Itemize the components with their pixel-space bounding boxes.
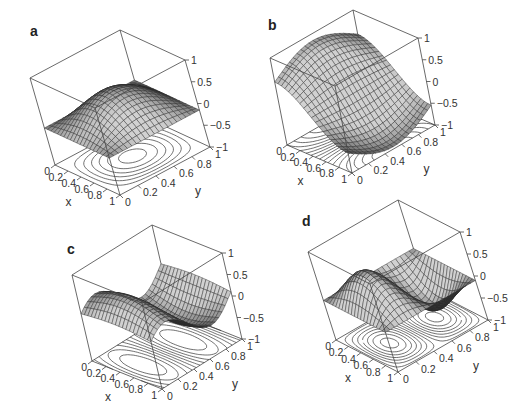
z-tick-label: 0.5 <box>197 76 212 88</box>
panel-d-surface-plot: 00.20.40.60.8100.20.40.60.81−1−0.500.51x… <box>302 200 508 385</box>
z-tick-label: −1 <box>494 314 506 326</box>
y-tick-label: 0.2 <box>143 186 158 198</box>
y-tick-label: 0.8 <box>475 331 490 343</box>
x-tick-label: 0.2 <box>86 367 101 379</box>
z-tick-label: 0.5 <box>428 54 443 66</box>
y-tick-label: 0.4 <box>199 370 214 382</box>
z-tick-label: 0 <box>204 98 210 110</box>
y-tick-label: 0.4 <box>161 177 176 189</box>
y-tick-label: 0.6 <box>407 145 422 157</box>
y-tick-label: 0.2 <box>421 363 436 375</box>
y-tick-label: 0.2 <box>374 164 389 176</box>
surface-mesh <box>275 33 431 154</box>
x-tick-label: 1 <box>341 173 347 185</box>
y-tick-label: 0.6 <box>215 360 230 372</box>
y-tick-label: 0.8 <box>197 158 212 170</box>
x-tick-label: 0.8 <box>366 366 381 378</box>
y-tick-label: 0.8 <box>231 350 246 362</box>
x-axis-label: x <box>105 390 111 404</box>
x-axis-label: x <box>66 195 72 209</box>
y-tick-label: 0.6 <box>179 167 194 179</box>
x-axis-label: x <box>298 174 304 188</box>
y-axis-label: y <box>473 359 479 373</box>
z-tick-label: 1 <box>228 247 234 259</box>
panel-c-surface-plot: 00.20.40.60.8100.20.40.60.81−1−0.500.51x… <box>67 225 264 404</box>
z-tick-label: 0 <box>238 290 244 302</box>
z-tick-label: 1 <box>424 32 430 44</box>
x-tick-label: 1 <box>151 389 157 401</box>
panel-label: d <box>302 213 311 229</box>
x-tick-label: 0.6 <box>114 378 129 390</box>
surface-mesh <box>323 248 475 332</box>
panel-label: b <box>268 17 277 33</box>
x-tick-label: 0.8 <box>128 383 143 395</box>
y-axis-label: y <box>424 162 430 176</box>
surface-mesh <box>44 80 199 158</box>
x-tick-label: 0.8 <box>319 167 334 179</box>
figure-canvas: 00.20.40.60.8100.20.40.60.81−1−0.500.51x… <box>0 0 532 415</box>
y-tick-label: 0 <box>125 196 131 208</box>
x-tick-label: 0.8 <box>87 189 102 201</box>
y-axis-label: y <box>232 377 238 391</box>
y-tick-label: 0.8 <box>423 136 438 148</box>
panel-a-surface-plot: 00.20.40.60.8100.20.40.60.81−1−0.500.51x… <box>30 23 231 209</box>
y-axis-label: y <box>195 184 201 198</box>
y-tick-label: 0 <box>357 174 363 186</box>
panel-b-surface-plot: 00.20.40.60.8100.20.40.60.81−1−0.500.51x… <box>268 10 458 188</box>
z-tick-label: 1 <box>466 226 472 238</box>
x-axis-label: x <box>345 371 351 385</box>
z-tick-label: −0.5 <box>437 97 458 109</box>
panel-label: a <box>30 23 38 39</box>
z-tick-label: 0.5 <box>233 269 248 281</box>
y-tick-label: 0.6 <box>457 342 472 354</box>
z-tick-label: 1 <box>191 54 197 66</box>
x-tick-label: 0.4 <box>100 372 115 384</box>
z-tick-label: −0.5 <box>210 119 231 131</box>
z-tick-label: 0.5 <box>473 248 488 260</box>
z-tick-label: −1 <box>216 141 228 153</box>
y-tick-label: 0 <box>403 373 409 385</box>
x-tick-label: 1 <box>387 372 393 384</box>
panel-label: c <box>67 241 75 257</box>
y-tick-label: 0 <box>167 390 173 402</box>
y-tick-label: 0.2 <box>183 380 198 392</box>
z-tick-label: −1 <box>248 333 260 345</box>
z-tick-label: −0.5 <box>243 312 264 324</box>
x-tick-label: 1 <box>109 195 115 207</box>
y-tick-label: 0.4 <box>439 352 454 364</box>
z-tick-label: 0 <box>480 270 486 282</box>
surface-mesh <box>81 264 231 342</box>
z-tick-label: −0.5 <box>487 292 508 304</box>
y-tick-label: 0.4 <box>390 155 405 167</box>
z-tick-label: 0 <box>433 76 439 88</box>
z-tick-label: −1 <box>441 119 453 131</box>
